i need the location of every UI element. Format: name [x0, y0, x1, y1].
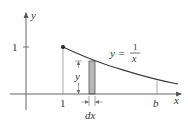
- start-point: [61, 45, 65, 49]
- area-under-curve-diagram: y x 1 1 b y = 1 x y dx: [0, 0, 188, 125]
- equation-denominator: x: [131, 53, 137, 64]
- y-tick-one-label: 1: [12, 41, 18, 53]
- y-axis-label: y: [30, 9, 36, 21]
- equation-numerator: 1: [133, 42, 138, 52]
- representative-rectangle: [89, 61, 95, 94]
- equation-lhs: y =: [109, 47, 125, 59]
- x-tick-b-label: b: [153, 97, 159, 109]
- x-axis-label: x: [173, 94, 179, 106]
- height-label: y: [74, 70, 80, 82]
- width-label: dx: [85, 109, 96, 121]
- x-tick-one-label: 1: [60, 97, 66, 109]
